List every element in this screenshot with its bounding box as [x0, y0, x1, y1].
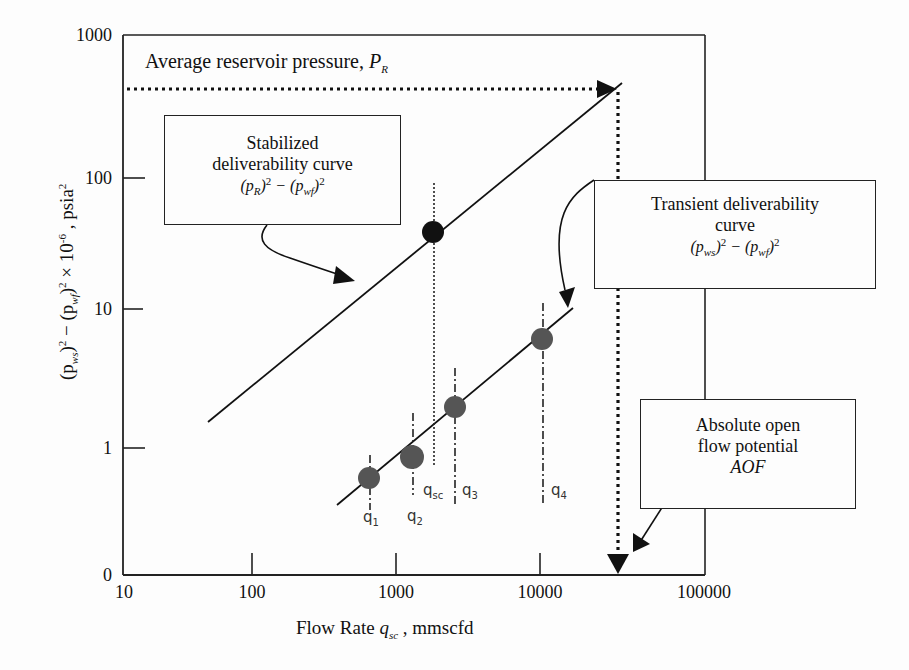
point-q2 — [400, 445, 424, 469]
stabilized-point — [422, 221, 444, 243]
y-tick-1: 1 — [52, 439, 112, 457]
arrow-down-icon — [607, 554, 629, 574]
label-qsc: qsc — [423, 483, 443, 498]
x-tick-10000: 10000 — [518, 583, 563, 601]
y-axis-label: (pws)2 − (pwf)2 × 10-6 , psia2 — [56, 184, 78, 380]
x-tick-100000: 100000 — [677, 583, 731, 601]
stabilized-formula: (pR)2 − (pwf)2 — [165, 175, 400, 196]
arrow-aof-icon — [633, 533, 650, 552]
aof-line — [607, 92, 629, 574]
transient-formula: (pws)2 − (pwf)2 — [595, 236, 875, 257]
point-q4 — [531, 328, 553, 350]
label-q1: q1 — [363, 510, 379, 525]
label-q3: q3 — [462, 483, 478, 498]
aof-line2: flow potential — [641, 436, 855, 457]
reservoir-pressure-line — [127, 80, 617, 98]
stabilized-curve-callout: Stabilized deliverability curve (pR)2 − … — [164, 115, 401, 225]
transient-line1: Transient deliverability — [595, 194, 875, 215]
label-q4: q4 — [551, 483, 567, 498]
reservoir-pressure-label: Average reservoir pressure, PR — [145, 50, 388, 73]
arrow-transient-icon — [559, 287, 575, 308]
aof-line3: AOF — [641, 457, 855, 478]
x-axis-label: Flow Rate qsc , mmscfd — [296, 617, 474, 639]
stabilized-line2: deliverability curve — [165, 154, 400, 175]
y-tick-0: 0 — [52, 566, 112, 584]
x-tick-1000: 1000 — [378, 583, 414, 601]
y-tick-1000: 1000 — [52, 26, 112, 44]
x-tick-10: 10 — [115, 583, 133, 601]
point-q1 — [358, 467, 380, 489]
chart-canvas — [0, 0, 909, 670]
stabilized-line1: Stabilized — [165, 133, 400, 154]
label-q2: q2 — [407, 509, 423, 524]
aof-callout: Absolute open flow potential AOF — [640, 399, 856, 509]
x-tick-100: 100 — [239, 583, 266, 601]
transient-curve-callout: Transient deliverability curve (pws)2 − … — [594, 180, 876, 289]
aof-line1: Absolute open — [641, 415, 855, 436]
y-axis — [123, 35, 145, 575]
arrow-stabilized-icon — [333, 266, 355, 284]
transient-line2: curve — [595, 215, 875, 236]
point-q3 — [444, 396, 466, 418]
